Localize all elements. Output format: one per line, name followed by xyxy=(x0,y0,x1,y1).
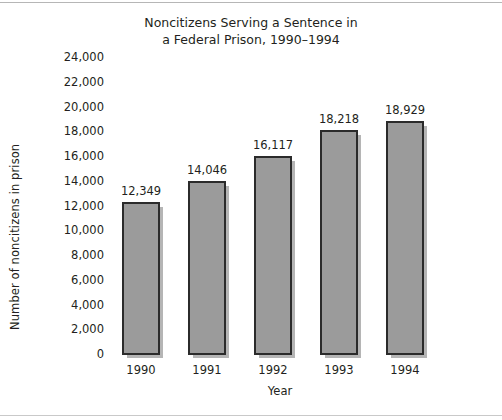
x-axis-tick-label: 1991 xyxy=(184,364,230,377)
bar-series: 12,34914,04616,11718,21818,929 xyxy=(110,58,450,355)
x-axis-tick-label: 1990 xyxy=(118,364,164,377)
y-axis-tick-label: 4,000 xyxy=(0,300,104,312)
bar-value-label: 16,117 xyxy=(253,139,293,151)
bar[interactable] xyxy=(254,156,292,355)
x-axis-tick-label: 1993 xyxy=(316,364,362,377)
y-axis-tick-label: 6,000 xyxy=(0,275,104,287)
bar-value-label: 12,349 xyxy=(121,185,161,197)
x-axis-tick-label: 1992 xyxy=(250,364,296,377)
x-axis-title: Year xyxy=(110,384,450,398)
y-axis-tick-label: 0 xyxy=(0,349,104,361)
bar-value-label: 14,046 xyxy=(187,164,227,176)
chart-title: Noncitizens Serving a Sentence in a Fede… xyxy=(0,14,502,48)
y-axis-tick-label: 20,000 xyxy=(0,102,104,114)
bar[interactable] xyxy=(386,121,424,355)
plot-area: 12,34914,04616,11718,21818,929 xyxy=(110,58,450,355)
x-axis-tick-label: 1994 xyxy=(382,364,428,377)
y-axis-tick-label: 14,000 xyxy=(0,176,104,188)
bar[interactable] xyxy=(122,202,160,355)
bar-chart: Noncitizens Serving a Sentence in a Fede… xyxy=(0,0,502,420)
y-axis-tick-label: 24,000 xyxy=(0,52,104,64)
bar-value-label: 18,218 xyxy=(319,113,359,125)
x-axis-tick-labels: 19901991199219931994 xyxy=(110,364,450,380)
bar-value-label: 18,929 xyxy=(385,104,425,116)
bar[interactable] xyxy=(188,181,226,355)
y-axis-tick-label: 22,000 xyxy=(0,77,104,89)
y-axis-tick-label: 18,000 xyxy=(0,127,104,139)
y-axis-tick-label: 12,000 xyxy=(0,201,104,213)
y-axis-tick-labels: 24,00022,00020,00018,00016,00014,00012,0… xyxy=(0,58,104,355)
y-axis-tick-label: 10,000 xyxy=(0,226,104,238)
bar[interactable] xyxy=(320,130,358,355)
y-axis-tick-label: 8,000 xyxy=(0,250,104,262)
y-axis-tick-label: 16,000 xyxy=(0,151,104,163)
y-axis-tick-label: 2,000 xyxy=(0,325,104,337)
